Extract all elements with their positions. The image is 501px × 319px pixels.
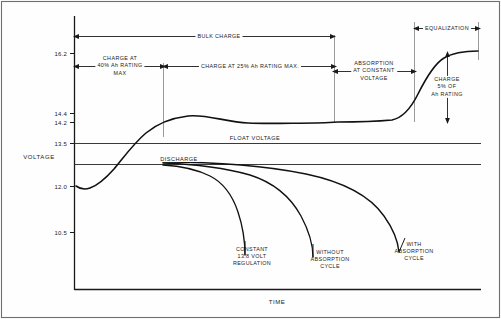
phase-label-charge-40-percent: CHARGE AT 40% Ah RATING MAX: [95, 55, 144, 77]
curve-label-constant-regulation: CONSTANT 13.8 VOLT REGULATION: [233, 246, 271, 268]
discharge-curve-with-absorption: [163, 162, 399, 252]
x-axis-title: TIME: [269, 299, 286, 305]
voltage-time-chart: 16.2 14.4 14.2 13.5 12.0 10.5 VOLTAGE TI…: [0, 0, 501, 319]
phase-label-absorption: ABSORPTION AT CONSTANT VOLTAGE: [351, 60, 397, 82]
discharge-label: DISCHARGE: [158, 156, 199, 162]
ytick-label-12-0: 12.0: [55, 184, 67, 190]
ytick-label-13-5: 13.5: [55, 141, 67, 147]
phase-label-charge-5-percent: CHARGE 5% OF Ah RATING: [429, 76, 465, 98]
ytick-label-16-2: 16.2: [55, 51, 67, 57]
float-voltage-label: FLOAT VOLTAGE: [228, 135, 283, 141]
phase-label-charge-25-percent: CHARGE AT 25% Ah RATING MAX.: [199, 63, 301, 70]
phase-label-bulk-charge: BULK CHARGE: [195, 33, 242, 40]
ytick-label-10-5: 10.5: [55, 230, 67, 236]
curve-label-with-absorption: WITH ABSORPTION CYCLE: [395, 241, 434, 263]
ytick-label-14-2: 14.2: [55, 120, 67, 126]
chart-canvas: [0, 0, 501, 319]
phase-label-equalization: EQUALIZATION: [423, 25, 471, 32]
figure-border: [2, 2, 500, 318]
curve-label-without-absorption: WITHOUT ABSORPTION CYCLE: [311, 249, 350, 271]
ytick-label-14-4: 14.4: [55, 111, 67, 117]
y-axis-ticks: [70, 54, 75, 233]
y-axis-title: VOLTAGE: [23, 154, 55, 160]
discharge-curve-constant-regulation: [163, 165, 245, 255]
